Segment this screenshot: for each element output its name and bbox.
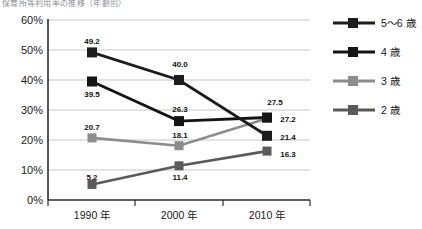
data-label-5-6sai-2010: 21.4 <box>280 133 296 142</box>
x-axis-labels: 1990 年 2000 年 2010 年 <box>74 209 285 221</box>
legend-label-3sai: 3 歳 <box>381 75 401 87</box>
data-marker <box>262 113 272 123</box>
legend-marker-icon <box>348 105 358 115</box>
data-label-5-6sai-2000: 40.0 <box>172 60 188 69</box>
legend-label-5-6sai: 5～6 歳 <box>381 17 417 29</box>
y-tick-20: 20% <box>21 134 43 146</box>
data-marker <box>87 77 97 87</box>
data-label-4sai-2010: 27.5 <box>267 98 283 107</box>
data-label-3sai-2010: 27.2 <box>280 115 296 124</box>
chart-title: 保育所等利用率の推移（年齢別） <box>2 0 127 8</box>
data-marker <box>87 47 97 57</box>
data-label-2sai-1990: 5.2 <box>86 173 98 182</box>
data-marker <box>175 161 184 170</box>
x-tick-1990: 1990 年 <box>74 209 110 221</box>
y-tick-50: 50% <box>21 44 43 56</box>
legend-item-5-6sai[interactable]: 5～6 歳 <box>333 17 417 29</box>
data-marker <box>174 75 184 85</box>
data-marker <box>88 133 97 142</box>
legend-marker-icon <box>348 47 358 57</box>
legend-label-2sai: 2 歳 <box>381 104 401 116</box>
y-tick-60: 60% <box>21 14 43 26</box>
y-tick-30: 30% <box>21 104 43 116</box>
x-tick-2000: 2000 年 <box>161 209 197 221</box>
y-tick-40: 40% <box>21 74 43 86</box>
legend-item-4sai[interactable]: 4 歳 <box>333 46 401 58</box>
y-axis-labels: 60% 50% 40% 30% 20% 10% 0% <box>21 14 43 206</box>
chart-container: 保育所等利用率の推移（年齢別） 60% 50% 40% 30% 20% 1 <box>0 0 422 229</box>
data-label-2sai-2010: 16.3 <box>280 150 296 159</box>
data-marker <box>263 147 272 156</box>
x-tick-2010: 2010 年 <box>249 209 285 221</box>
data-marker <box>174 116 184 126</box>
data-label-3sai-2000: 18.1 <box>172 131 188 140</box>
legend-marker-icon <box>348 76 358 86</box>
data-label-4sai-1990: 39.5 <box>84 90 100 99</box>
data-marker <box>175 141 184 150</box>
data-label-2sai-2000: 11.4 <box>172 173 188 182</box>
legend-item-3sai[interactable]: 3 歳 <box>333 75 401 87</box>
data-label-5-6sai-1990: 49.2 <box>84 37 100 46</box>
data-marker <box>262 131 272 141</box>
y-tick-0: 0% <box>27 194 43 206</box>
chart-legend: 5～6 歳 4 歳 3 歳 2 歳 <box>333 17 417 116</box>
y-tick-10: 10% <box>21 164 43 176</box>
legend-item-2sai[interactable]: 2 歳 <box>333 104 401 116</box>
data-label-4sai-2000: 26.3 <box>172 105 188 114</box>
line-chart-svg: 保育所等利用率の推移（年齢別） 60% 50% 40% 30% 20% 1 <box>0 0 422 229</box>
legend-marker-icon <box>348 18 358 28</box>
data-label-3sai-1990: 20.7 <box>84 123 100 132</box>
series-line-2sai <box>88 147 272 189</box>
legend-label-4sai: 4 歳 <box>381 46 401 58</box>
